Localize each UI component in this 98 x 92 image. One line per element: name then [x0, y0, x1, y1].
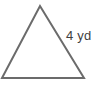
side-length-label: 4 yd	[66, 29, 91, 43]
triangle-canvas	[0, 0, 98, 92]
geometry-figure: 4 yd	[0, 0, 98, 92]
